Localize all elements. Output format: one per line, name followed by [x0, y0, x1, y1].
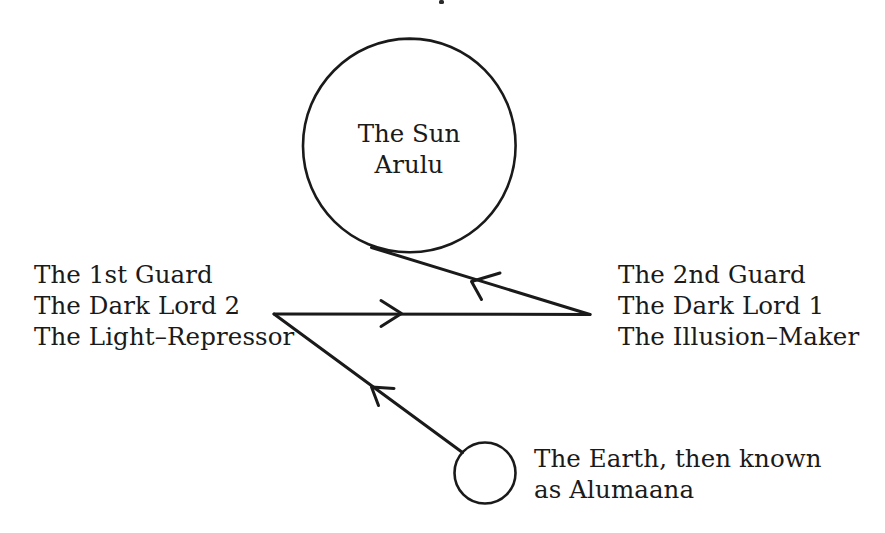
cropped-title-mark [439, 0, 444, 4]
edge-second-guard-to-first-guard [274, 301, 590, 327]
second-guard-label: The 2nd Guard The Dark Lord 1 The Illusi… [618, 259, 859, 352]
first-guard-label-line-2: The Dark Lord 2 [34, 290, 294, 321]
sun-label-line-2: Arulu [304, 149, 514, 180]
edge-line-guard-to-guard [274, 314, 590, 315]
earth-label-line-1: The Earth, then known [534, 443, 822, 474]
first-guard-label-line-3: The Light–Repressor [34, 321, 294, 352]
diagram-canvas: The Sun Arulu The 1st Guard The Dark Lor… [0, 0, 885, 533]
edge-line-sun-second-guard [372, 248, 591, 315]
earth-label: The Earth, then known as Alumaana [534, 443, 822, 505]
second-guard-label-line-1: The 2nd Guard [618, 259, 859, 290]
second-guard-label-line-2: The Dark Lord 1 [618, 290, 859, 321]
edge-earth-to-first-guard [274, 314, 463, 453]
second-guard-label-line-3: The Illusion–Maker [618, 321, 859, 352]
first-guard-label: The 1st Guard The Dark Lord 2 The Light–… [34, 259, 294, 352]
first-guard-label-line-1: The 1st Guard [34, 259, 294, 290]
earth-label-line-2: as Alumaana [534, 474, 822, 505]
edge-line-earth-first-guard [274, 314, 463, 453]
edge-sun-to-second-guard [372, 248, 591, 315]
sun-label: The Sun Arulu [304, 118, 514, 180]
sun-label-line-1: The Sun [304, 118, 514, 149]
